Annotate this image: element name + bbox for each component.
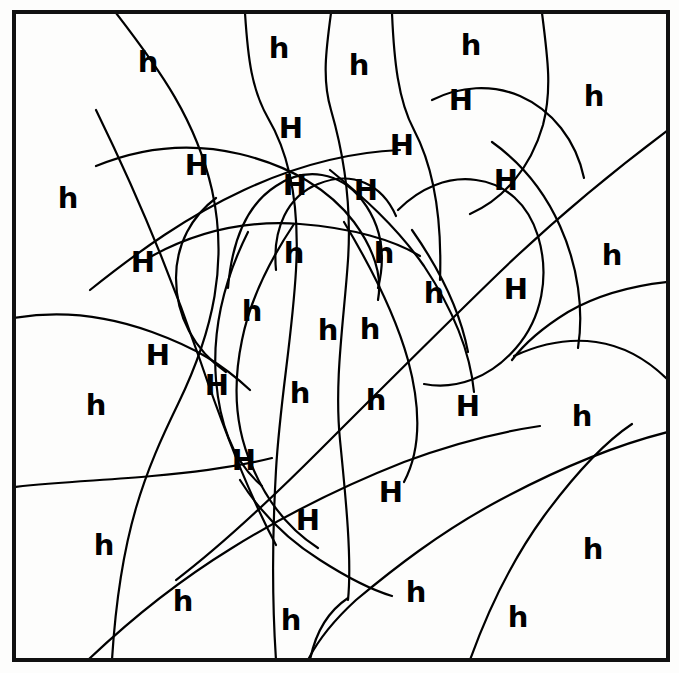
region-letter-lower-16[interactable]: h	[374, 239, 395, 268]
region-letter-upper-5[interactable]: H	[449, 86, 473, 115]
worksheet-page: hhhhHhHHHHhHHHhhhhHhhhHHhhHhhHHHhhhhhh	[0, 0, 679, 673]
region-letter-lower-29[interactable]: h	[572, 402, 593, 431]
region-letter-lower-28[interactable]: h	[86, 391, 107, 420]
region-letter-upper-23[interactable]: H	[146, 341, 170, 370]
region-letter-upper-27[interactable]: H	[456, 392, 480, 421]
region-letter-upper-7[interactable]: H	[279, 114, 303, 143]
region-letter-lower-38[interactable]: h	[508, 603, 529, 632]
region-boundary-curves	[14, 13, 668, 660]
region-letter-lower-22[interactable]: h	[360, 315, 381, 344]
region-letter-lower-15[interactable]: h	[284, 239, 305, 268]
region-letter-lower-4[interactable]: h	[461, 31, 482, 60]
region-letter-upper-32[interactable]: H	[296, 506, 320, 535]
region-letter-lower-36[interactable]: h	[281, 606, 302, 635]
region-letter-lower-18[interactable]: h	[424, 279, 445, 308]
region-letter-upper-9[interactable]: H	[185, 151, 209, 180]
region-letter-lower-20[interactable]: h	[242, 297, 263, 326]
region-boundary-curve	[514, 341, 668, 380]
region-letter-lower-37[interactable]: h	[406, 578, 427, 607]
region-letter-lower-35[interactable]: h	[173, 587, 194, 616]
puzzle-region-map	[0, 0, 679, 673]
region-letter-upper-14[interactable]: H	[131, 248, 155, 277]
region-letter-upper-12[interactable]: H	[283, 171, 307, 200]
region-letter-lower-17[interactable]: h	[602, 241, 623, 270]
region-letter-lower-6[interactable]: h	[584, 82, 605, 111]
region-letter-upper-19[interactable]: H	[504, 275, 528, 304]
region-boundary-curve	[176, 130, 668, 580]
region-letter-lower-1[interactable]: h	[138, 48, 159, 77]
region-boundary-curve	[330, 170, 474, 392]
region-letter-upper-24[interactable]: H	[205, 371, 229, 400]
region-letter-lower-26[interactable]: h	[366, 386, 387, 415]
region-boundary-curve	[470, 424, 632, 660]
region-letter-lower-25[interactable]: h	[290, 379, 311, 408]
region-letter-lower-3[interactable]: h	[349, 51, 370, 80]
region-letter-lower-33[interactable]: h	[94, 531, 115, 560]
region-boundary-curve	[88, 426, 540, 660]
region-boundary-curve	[326, 13, 350, 600]
region-letter-upper-10[interactable]: H	[494, 166, 518, 195]
region-letter-upper-8[interactable]: H	[390, 131, 414, 160]
region-letter-lower-11[interactable]: h	[58, 184, 79, 213]
region-letter-lower-34[interactable]: h	[583, 535, 604, 564]
region-letter-lower-21[interactable]: h	[318, 316, 339, 345]
region-letter-upper-31[interactable]: H	[379, 478, 403, 507]
region-letter-lower-2[interactable]: h	[269, 34, 290, 63]
region-boundary-curve	[308, 432, 668, 660]
region-letter-upper-30[interactable]: H	[232, 446, 256, 475]
region-boundary-curve	[240, 480, 392, 596]
region-letter-upper-13[interactable]: H	[354, 176, 378, 205]
